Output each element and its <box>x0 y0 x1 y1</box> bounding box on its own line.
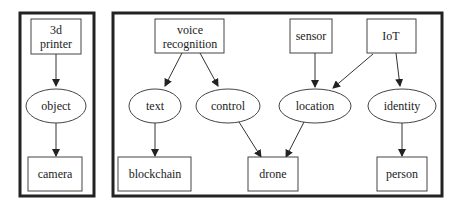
node-iot[interactable]: IoT <box>367 19 416 53</box>
node-label: text <box>146 99 165 113</box>
node-label: 3d <box>50 23 62 37</box>
diagram-canvas: 3d printer object camera voice recogniti… <box>0 0 461 209</box>
node-label: control <box>211 99 246 113</box>
node-person[interactable]: person <box>377 157 427 191</box>
node-identity[interactable]: identity <box>368 89 436 123</box>
node-control[interactable]: control <box>196 89 260 123</box>
node-label: recognition <box>163 37 218 51</box>
node-text[interactable]: text <box>129 89 181 123</box>
node-label: camera <box>38 167 73 181</box>
node-blockchain[interactable]: blockchain <box>118 157 191 191</box>
edge-voice-text <box>165 53 182 86</box>
node-camera[interactable]: camera <box>28 157 82 191</box>
node-sensor[interactable]: sensor <box>290 19 332 53</box>
node-label: identity <box>384 99 421 113</box>
edge-voice-control <box>200 53 218 86</box>
node-label: blockchain <box>129 167 182 181</box>
node-drone[interactable]: drone <box>248 157 298 191</box>
node-label: sensor <box>296 29 327 43</box>
node-label: IoT <box>382 29 400 43</box>
node-label: object <box>41 99 71 113</box>
node-label: printer <box>40 37 72 51</box>
edge-control-drone <box>239 122 261 157</box>
edge-iot-location <box>333 54 373 88</box>
node-location[interactable]: location <box>279 89 351 123</box>
edge-iot-identity <box>396 53 400 86</box>
node-voice-recognition[interactable]: voice recognition <box>155 19 224 53</box>
node-label: person <box>386 167 418 181</box>
edge-location-drone <box>286 122 304 157</box>
node-label: drone <box>259 167 286 181</box>
node-3d-printer[interactable]: 3d printer <box>31 19 81 54</box>
node-object[interactable]: object <box>26 89 86 123</box>
node-label: voice <box>177 23 203 37</box>
node-label: location <box>296 99 335 113</box>
